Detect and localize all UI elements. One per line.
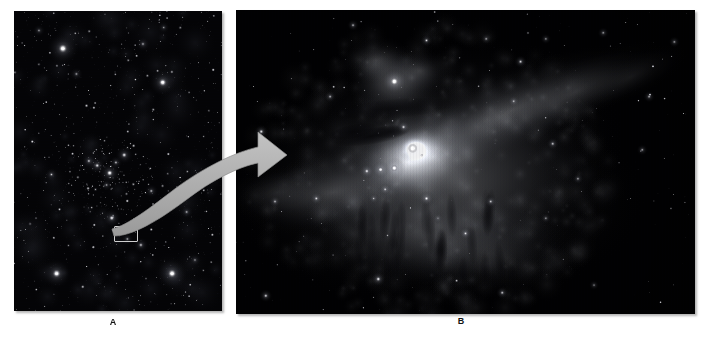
panel-a-star-cluster-image[interactable] [14,11,222,311]
panel-a-label: A [98,317,128,327]
panel-b-orion-nebula-image[interactable] [236,10,695,314]
panel-a-starfield-canvas [14,11,222,311]
panel-b-nebula-canvas [236,10,695,314]
panel-b-label: B [446,316,476,326]
nebula-highlight-box[interactable] [114,226,138,242]
two-panel-figure: A B [0,0,706,339]
